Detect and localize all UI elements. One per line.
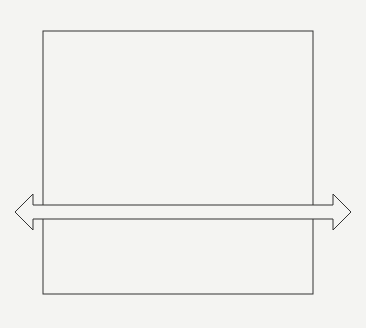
department-box — [43, 31, 313, 294]
tqc-diagram — [0, 0, 366, 328]
total-quality-control-arrow — [15, 194, 351, 230]
